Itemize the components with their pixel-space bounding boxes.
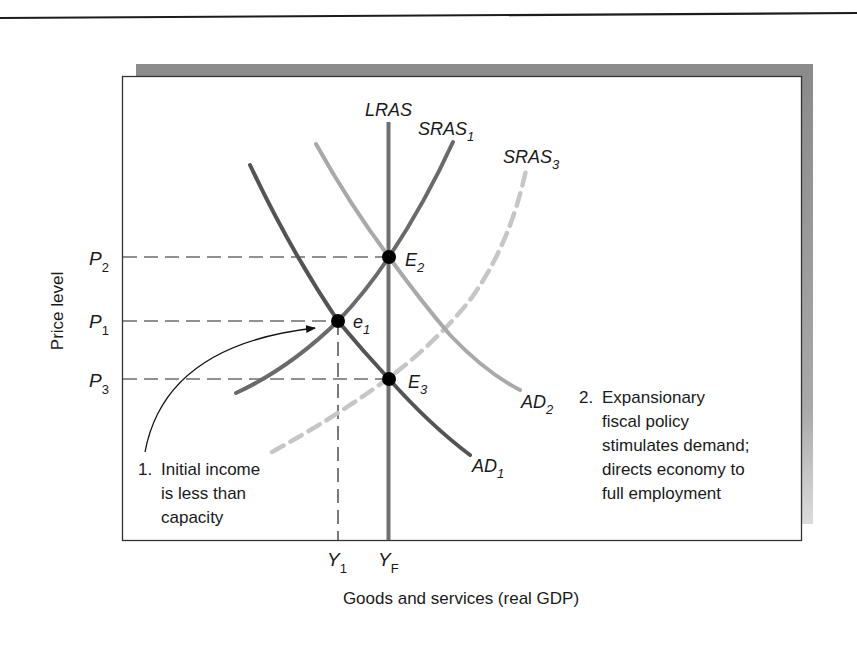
annotation-2-number: 2. bbox=[579, 388, 593, 407]
annotation-1-line: capacity bbox=[161, 508, 224, 527]
y-axis-title: Price level bbox=[48, 272, 67, 350]
economics-chart: e1 E2 E3 LRAS SRAS1 SRAS3 AD1 AD2 P2 P1 … bbox=[0, 0, 857, 654]
annotation-1-number: 1. bbox=[138, 460, 152, 479]
annotation-1-line: Initial income bbox=[161, 460, 260, 479]
x-tick-yf: YF bbox=[378, 549, 399, 576]
x-tick-y1: Y1 bbox=[327, 549, 347, 576]
y-tick-p1: P1 bbox=[89, 311, 109, 338]
label-lras: LRAS bbox=[365, 100, 412, 120]
annotation-2-line: Expansionary bbox=[602, 388, 706, 407]
y-tick-p3: P3 bbox=[89, 370, 109, 397]
annotation-2-line: directs economy to bbox=[602, 460, 745, 479]
annotation-1-line: is less than bbox=[161, 484, 246, 503]
point-e3 bbox=[382, 372, 396, 386]
annotation-2-line: fiscal policy bbox=[602, 412, 689, 431]
x-axis-title: Goods and services (real GDP) bbox=[343, 589, 579, 608]
annotation-2-line: full employment bbox=[602, 484, 721, 503]
point-e1 bbox=[331, 314, 345, 328]
y-tick-p2: P2 bbox=[89, 248, 109, 275]
top-rule bbox=[0, 13, 857, 18]
annotation-2-line: stimulates demand; bbox=[602, 436, 749, 455]
point-e2 bbox=[382, 250, 396, 264]
